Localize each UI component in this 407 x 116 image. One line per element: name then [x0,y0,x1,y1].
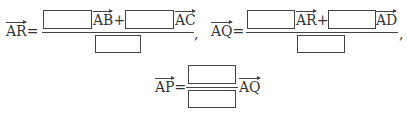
vector-ap: AP [155,79,175,95]
eq3-term: AQ [239,79,261,95]
eq2-term2: AD [376,12,397,28]
answer-box-7[interactable] [188,65,236,84]
answer-box-5[interactable] [328,10,376,29]
eq2-lhs: AQ= [211,23,244,39]
vector-ar: AR [6,23,27,39]
plus: + [113,12,125,28]
fraction-line-3 [186,87,238,88]
vector-ar: AR [296,12,317,28]
comma: , [399,26,403,42]
answer-box-3[interactable] [95,35,141,53]
eq1-lhs: AR= [6,23,38,39]
comma: , [194,26,198,42]
answer-box-6[interactable] [297,35,345,53]
eq2-term1: AR+ [296,12,328,28]
answer-box-4[interactable] [247,10,295,29]
vector-ab: AB [93,12,113,28]
equals: = [27,23,39,39]
vector-ac: AC [175,12,196,28]
equals: = [175,79,187,95]
vector-aq: AQ [211,23,233,39]
answer-box-2[interactable] [125,10,174,29]
answer-box-8[interactable] [188,90,236,108]
eq3-lhs: AP= [155,79,186,95]
eq1-term2: AC [175,12,196,28]
fraction-line-1 [42,32,194,33]
equals: = [233,23,245,39]
eq1-term1: AB+ [93,12,125,28]
plus: + [317,12,329,28]
fraction-line-2 [246,32,398,33]
answer-box-1[interactable] [43,10,92,29]
vector-aq: AQ [239,79,261,95]
vector-ad: AD [376,12,397,28]
